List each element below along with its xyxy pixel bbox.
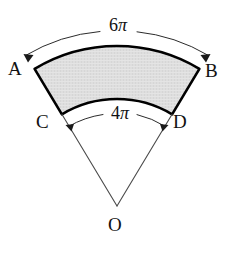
outer-arc-unit: π	[118, 15, 128, 35]
inner-arc-value: 4	[111, 103, 120, 123]
label-inner-arc-dimension: 4π	[111, 103, 130, 123]
label-point-c: C	[36, 111, 49, 132]
label-outer-arc-dimension: 6π	[109, 15, 128, 35]
outer-dimension-arrowhead-left	[24, 54, 34, 63]
inner-dimension-arrowhead-right	[160, 124, 169, 132]
outer-arc-value: 6	[109, 15, 118, 35]
annulus-sector-figure: A B C D O 6π 4π	[0, 0, 236, 256]
label-point-d: D	[173, 111, 187, 132]
figure-container: A B C D O 6π 4π	[0, 0, 236, 256]
label-point-b: B	[205, 60, 218, 81]
label-point-a: A	[8, 58, 22, 79]
inner-arc-unit: π	[120, 103, 130, 123]
inner-dimension-arrowhead-left	[66, 124, 75, 132]
label-point-o: O	[108, 214, 122, 235]
